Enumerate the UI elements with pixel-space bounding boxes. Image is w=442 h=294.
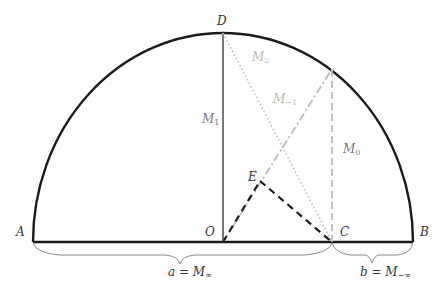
label-a-equals-m-infinity: a = M∞ [168,266,212,280]
segment-dc [223,33,332,242]
brace-a [33,243,332,264]
label-b-equals-m-minus-infinity: b = M−∞ [360,266,411,280]
label-o: O [205,226,215,238]
label-m1: M1 [202,113,219,127]
label-b: B [420,226,429,238]
brace-b [332,243,413,263]
semicircle-diagram [0,0,442,294]
label-d: D [217,15,227,27]
label-m0: M0 [343,143,360,157]
label-m2: M2 [252,51,269,65]
label-m-minus-1: M−1 [273,93,297,107]
label-a: A [16,226,25,238]
label-e: E [248,171,257,183]
label-c: C [340,226,349,238]
segment-ec [260,181,332,242]
